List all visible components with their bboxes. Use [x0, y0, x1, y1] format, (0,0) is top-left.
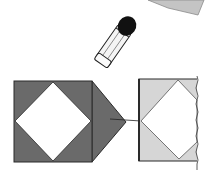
paper-sheet-corner [148, 0, 204, 15]
triangle-flap [92, 81, 126, 162]
target-sheet [139, 76, 198, 170]
glue-stick-icon [93, 13, 140, 69]
folded-square [14, 81, 92, 162]
folding-diagram [0, 0, 216, 180]
